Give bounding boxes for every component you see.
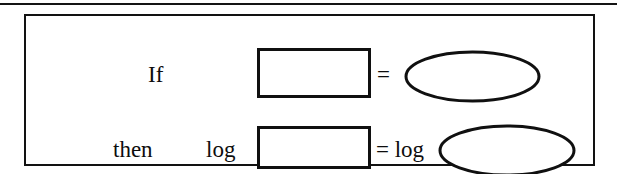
equals-log-row2: = log <box>376 138 424 161</box>
equals-sign-row1: = <box>377 63 390 86</box>
rectangle-placeholder-antecedent[interactable] <box>257 48 371 98</box>
rectangle-placeholder-log-antecedent[interactable] <box>257 126 371 169</box>
page-horizontal-rule <box>0 3 617 5</box>
then-label: then <box>113 138 153 161</box>
ellipse-shape-icon <box>404 50 541 103</box>
log-label-left: log <box>206 138 235 161</box>
ellipse-placeholder-log-consequent[interactable] <box>438 124 576 174</box>
figure-frame: If = then log = log <box>24 14 595 166</box>
if-label: If <box>148 63 163 86</box>
ellipse-placeholder-consequent[interactable] <box>404 50 541 103</box>
scanned-page: If = then log = log <box>0 0 617 174</box>
ellipse-shape-icon <box>438 124 576 174</box>
